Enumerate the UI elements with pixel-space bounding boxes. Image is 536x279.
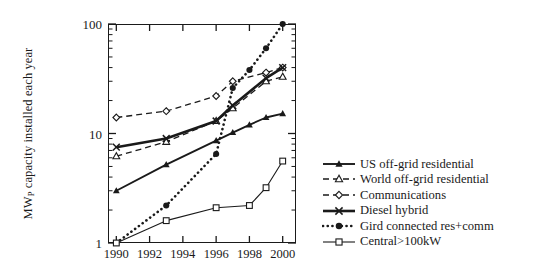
legend-item[interactable]: US off-grid residential — [322, 156, 534, 172]
legend-label: Gird connected res+comm — [356, 220, 494, 233]
y-tick-label: 1 — [96, 237, 103, 250]
y-axis-title: MWP capacity installed each year — [21, 14, 36, 254]
legend-item[interactable]: World off-grid residential — [322, 172, 534, 188]
y-axis-title-subscript: P — [26, 191, 36, 196]
legend-item[interactable]: Diesel hybrid — [322, 203, 534, 219]
x-tick-label: 1994 — [170, 248, 195, 261]
series-1 — [113, 73, 286, 159]
legend-item[interactable]: Central>100kW — [322, 234, 534, 250]
legend-label: Central>100kW — [356, 235, 441, 248]
x-tick-label: 1990 — [104, 248, 129, 261]
plot-area: 100101 199019921994199619982000 — [108, 24, 296, 243]
series-2 — [113, 64, 286, 121]
filled-triangle-icon — [322, 157, 356, 171]
cross-x-icon — [322, 204, 356, 218]
chart-legend: US off-grid residentialWorld off-grid re… — [322, 156, 534, 250]
y-axis-title-suffix: capacity installed each year — [21, 48, 35, 192]
series-3 — [113, 64, 286, 150]
x-tick-label: 1996 — [204, 248, 229, 261]
open-diamond-icon — [322, 188, 356, 202]
figure: MWP capacity installed each year 100101 … — [0, 0, 536, 279]
filled-circle-icon — [322, 219, 356, 233]
legend-label: World off-grid residential — [356, 173, 489, 186]
legend-item[interactable]: Communications — [322, 187, 534, 203]
x-tick-label: 2000 — [270, 248, 295, 261]
y-tick-label: 100 — [83, 18, 103, 31]
series-0 — [113, 110, 286, 193]
legend-label: Communications — [356, 189, 446, 202]
open-square-icon — [322, 235, 356, 249]
legend-label: Diesel hybrid — [356, 204, 428, 217]
series-5 — [113, 158, 285, 246]
x-tick-label: 1992 — [137, 248, 162, 261]
chart-canvas — [108, 24, 296, 243]
open-triangle-icon — [322, 172, 356, 186]
legend-label: US off-grid residential — [356, 158, 474, 171]
legend-item[interactable]: Gird connected res+comm — [322, 218, 534, 234]
x-tick-label: 1998 — [237, 248, 262, 261]
y-axis-title-prefix: MW — [21, 196, 35, 219]
y-tick-label: 10 — [89, 127, 102, 140]
